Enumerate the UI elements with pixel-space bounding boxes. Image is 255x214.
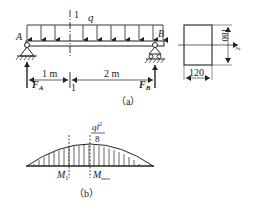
reaction-b-sub: B: [145, 84, 151, 92]
reaction-force-b: FB: [138, 65, 155, 92]
caption-a: （a）: [116, 96, 140, 107]
peak-denominator: 8: [95, 134, 100, 144]
z-axis-label: z: [234, 46, 243, 51]
svg-text:Mmax: Mmax: [92, 169, 110, 181]
section-line-1: 1 1: [70, 9, 79, 93]
m1-sub: 1: [65, 175, 68, 181]
caption-b: （b）: [74, 188, 99, 199]
support-b-label: B: [158, 28, 164, 39]
mmax-sub: max: [101, 176, 110, 181]
height-label: 180: [220, 28, 230, 42]
svg-text:M1: M1: [56, 169, 68, 181]
reaction-a-sub: A: [38, 84, 44, 92]
section-label-top: 1: [74, 9, 79, 20]
beam: [26, 41, 164, 46]
peak-moment-label: ql2 8: [91, 121, 105, 144]
distributed-load-q: q: [27, 11, 163, 40]
cross-section: 180 z 120: [178, 25, 243, 80]
figure-b-moment-diagram: ql2 8 M1 Mmax （b）: [26, 121, 154, 199]
dim-right-label: 2 m: [104, 68, 120, 79]
figure-a: q 1 1 A: [15, 9, 243, 107]
dim-left-label: 1 m: [42, 68, 58, 79]
support-a-label: A: [15, 31, 23, 42]
load-q-label: q: [88, 11, 94, 23]
section-label-bottom: 1: [71, 82, 76, 93]
svg-text:FA: FA: [31, 79, 44, 92]
svg-text:ql2: ql2: [92, 121, 102, 132]
svg-text:FB: FB: [138, 79, 151, 92]
dimension-lines: 1 m 2 m: [29, 68, 153, 80]
moment-hatching: [34, 145, 139, 166]
beam-diagram: q 1 1 A: [0, 0, 255, 214]
width-label: 120: [189, 67, 204, 78]
